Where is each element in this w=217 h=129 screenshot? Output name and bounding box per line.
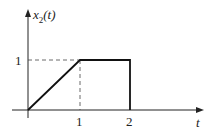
signal-curve xyxy=(28,60,130,110)
x-tick-1: 1 xyxy=(76,115,83,128)
y-tick-1: 1 xyxy=(15,54,22,67)
y-axis-label: x2(t) xyxy=(33,8,56,25)
x-axis-arrow-icon xyxy=(196,107,204,113)
x-tick-2: 2 xyxy=(126,115,133,128)
y-axis-arrow-icon xyxy=(25,9,31,17)
x-axis-label: t xyxy=(196,116,200,129)
